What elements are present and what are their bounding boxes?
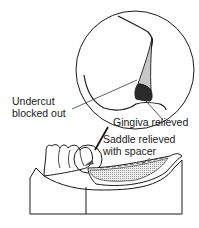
label-undercut-line2: blocked out — [12, 107, 66, 119]
label-undercut-line1: Undercut — [12, 95, 66, 107]
label-gingiva: Gingiva relieved — [113, 116, 188, 128]
label-undercut: Undercut blocked out — [12, 95, 66, 119]
label-saddle-line1: Saddle relieved — [103, 133, 175, 145]
label-saddle: Saddle relieved with spacer — [103, 133, 175, 157]
magnified-detail-circle — [72, 11, 194, 129]
label-saddle-line2: with spacer — [103, 145, 175, 157]
